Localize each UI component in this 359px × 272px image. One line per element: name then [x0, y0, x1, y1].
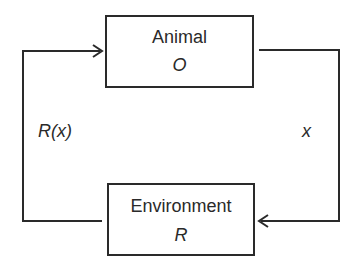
environment-symbol: R	[109, 225, 253, 246]
environment-box: Environment R	[107, 183, 255, 256]
edge-animal-to-environment	[259, 50, 339, 221]
animal-title: Animal	[107, 27, 252, 48]
animal-box: Animal O	[105, 15, 254, 88]
environment-title: Environment	[109, 196, 253, 217]
edge-label-x: x	[302, 121, 311, 142]
edge-label-r-of-x: R(x)	[38, 121, 72, 142]
animal-symbol: O	[107, 55, 252, 76]
